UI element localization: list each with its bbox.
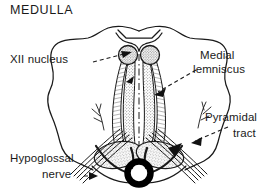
label-pyramidal-tract-line1: Pyramidal <box>205 111 257 124</box>
anterior-spinal-artery <box>128 162 151 185</box>
leader-hypoglossal-nerve <box>84 172 98 180</box>
label-hypoglossal-nerve-line1: Hypoglossal <box>10 152 74 165</box>
leader-pyramidal-tract <box>191 127 228 146</box>
figure-title: MEDULLA <box>10 4 73 17</box>
vessel-branch-left <box>92 104 104 130</box>
figure-canvas: MEDULLA XII nucleus Medial lemniscus Pyr… <box>0 0 278 194</box>
label-medial-lemniscus-line1: Medial <box>200 49 234 62</box>
label-hypoglossal-nerve-line2: nerve <box>42 168 71 181</box>
label-xii-nucleus: XII nucleus <box>10 53 68 66</box>
label-medial-lemniscus-line2: lemniscus <box>193 63 245 76</box>
label-pyramidal-tract-line2: tract <box>233 127 256 140</box>
hypoglossal-nucleus-right <box>141 46 160 65</box>
